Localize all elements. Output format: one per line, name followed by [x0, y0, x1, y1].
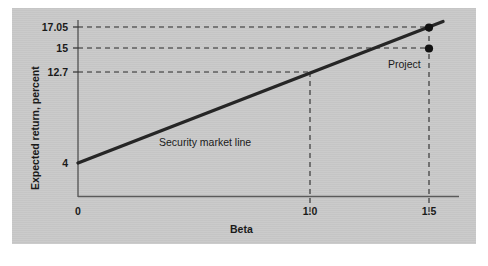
data-point-project: [425, 44, 433, 52]
y-axis-title: Expected return, percent: [30, 66, 41, 190]
x-axis-title: Beta: [230, 224, 253, 235]
security-market-line-label: Security market line: [159, 137, 251, 148]
y-tick-label-15: 15: [24, 43, 68, 54]
security-market-line: [78, 22, 443, 164]
figure-container: 17.05 15 12.7 4 0 1.0 1.5 Beta Expected …: [0, 0, 488, 266]
project-label: Project: [388, 59, 421, 70]
data-point-sml-beta-1.5: [425, 23, 433, 31]
x-tick-label-1.5: 1.5: [411, 206, 447, 217]
x-tick-label-1.0: 1.0: [292, 206, 328, 217]
x-tick-label-0: 0: [60, 206, 96, 217]
y-tick-label-17.05: 17.05: [24, 22, 68, 33]
